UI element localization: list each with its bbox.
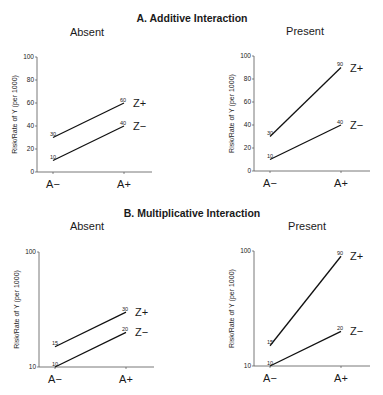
series-legend-label: Z+ [350,62,363,74]
series-legend-label: Z+ [135,306,148,318]
point-value-label: 30 [267,130,273,136]
x-category-label: A− [48,373,62,385]
series-legend-label: Z− [350,325,363,337]
x-category-label: A− [46,178,60,190]
y-tick-label: 60 [27,99,35,106]
series-line [53,126,124,161]
point-value-label: 90 [337,250,343,256]
y-axis-label: Risk/Rate of Y (per 1000) [11,75,19,154]
y-tick-label: 40 [27,122,35,129]
y-tick-label: 20 [244,144,252,151]
point-value-label: 10 [50,154,56,160]
y-tick-label: 40 [244,121,252,128]
y-tick-label: 100 [25,248,36,255]
series-legend-label: Z− [350,119,363,131]
y-axis-label: Risk/Rate of Y (per 1000) [228,269,236,348]
point-value-label: 10 [52,361,58,367]
point-value-label: 15 [52,340,58,346]
point-value-label: 20 [122,326,128,332]
y-tick-label: 0 [247,167,251,174]
point-value-label: 40 [120,120,126,126]
point-value-label: 30 [50,131,56,137]
y-tick-label: 10 [244,362,252,369]
series-line [270,125,341,160]
point-value-label: 15 [267,339,273,345]
series-legend-label: Z− [135,326,148,338]
series-line [53,103,124,138]
y-tick-label: 0 [30,168,34,175]
series-line [270,331,341,366]
point-value-label: 10 [267,153,273,159]
x-category-label: A+ [119,373,133,385]
point-value-label: 30 [122,306,128,312]
point-value-label: 40 [337,119,343,125]
series-legend-label: Z+ [133,97,146,109]
x-category-label: A+ [334,372,348,384]
series-line [270,256,341,345]
series-line [55,312,126,347]
y-tick-label: 80 [27,76,35,83]
series-legend-label: Z− [133,120,146,132]
charts-canvas: 020406080100A−A+Risk/Rate of Y (per 1000… [0,0,383,395]
series-line [55,332,126,367]
x-category-label: A+ [117,178,131,190]
series-line [270,68,341,137]
x-category-label: A− [263,372,277,384]
y-tick-label: 100 [240,247,251,254]
y-tick-label: 20 [27,145,35,152]
point-value-label: 90 [337,61,343,67]
point-value-label: 10 [267,360,273,366]
series-legend-label: Z+ [350,250,363,262]
y-tick-label: 100 [240,52,251,59]
y-tick-label: 10 [29,363,37,370]
point-value-label: 20 [337,325,343,331]
y-axis-label: Risk/Rate of Y (per 1000) [228,74,236,153]
y-tick-label: 100 [23,53,34,60]
x-category-label: A− [263,177,277,189]
x-category-label: A+ [334,177,348,189]
y-tick-label: 60 [244,98,252,105]
y-tick-label: 80 [244,75,252,82]
y-axis-label: Risk/Rate of Y (per 1000) [13,270,21,349]
point-value-label: 60 [120,97,126,103]
